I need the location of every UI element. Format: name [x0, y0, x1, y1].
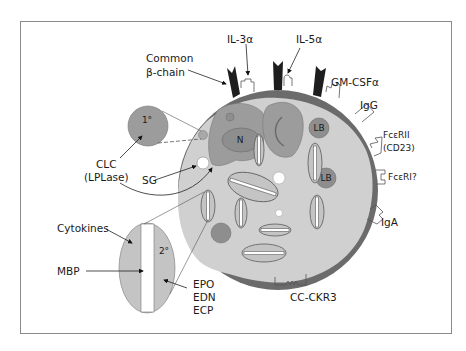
label-cytokines: Cytokines: [57, 222, 109, 234]
label-common-beta-chain-2: β-chain: [146, 66, 185, 78]
lipid-body-2-label: LB: [320, 173, 331, 183]
label-il3a: IL-3α: [227, 33, 253, 45]
secondary-granule-inside: [310, 195, 324, 229]
primary-granule-small: [199, 131, 208, 140]
label-igg: IgG: [360, 99, 378, 111]
label-edn: EDN: [193, 291, 216, 303]
nucleus-label: N: [237, 135, 244, 145]
secondary-granule-label: 2°: [159, 246, 169, 256]
secondary-granule-inside: [235, 198, 247, 228]
label-gmcsfa: GM-CSFα: [331, 76, 379, 88]
primary-granule-enlarged: 1°: [128, 106, 168, 146]
label-clc-2: (LPLase): [84, 171, 129, 183]
secondary-granule-inside: [259, 224, 291, 236]
label-cc-ckr3: CC-CKR3: [290, 291, 337, 303]
label-fceRI: FcεRI?: [388, 172, 417, 182]
eosinophil-diagram: N LB LB: [0, 0, 466, 351]
nucleus-small-body: [226, 113, 234, 121]
secondary-granule-inside: [308, 143, 322, 183]
secondary-granule-inside: [242, 244, 286, 262]
label-epo: EPO: [193, 278, 214, 290]
secondary-granule-inside: [201, 190, 215, 222]
label-ecp: ECP: [193, 304, 213, 316]
label-fceRII-1: FcεRII: [383, 130, 410, 140]
vesicle: [273, 172, 285, 184]
secondary-granule-inside: [254, 134, 264, 166]
vesicle: [276, 210, 283, 217]
label-sg: SG: [142, 174, 157, 186]
label-mbp: MBP: [57, 265, 80, 277]
secondary-granule-enlarged: 2°: [119, 223, 175, 313]
lipid-body-1-label: LB: [313, 123, 324, 133]
label-common-beta-chain-1: Common: [146, 52, 193, 64]
label-il5a: IL-5α: [296, 33, 322, 45]
label-fceRII-2: (CD23): [383, 143, 415, 153]
eosinophil-cell: N LB LB: [178, 90, 378, 290]
label-iga: IgA: [381, 216, 399, 228]
primary-granule-label: 1°: [142, 115, 152, 125]
small-granule: [197, 157, 209, 169]
grey-body: [211, 223, 231, 243]
label-clc-1: CLC: [96, 158, 117, 170]
